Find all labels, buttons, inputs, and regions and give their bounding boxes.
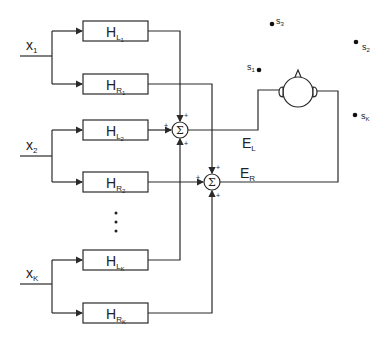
- filter-HL2: HL2: [83, 120, 148, 142]
- output-EL-wiring: [188, 90, 280, 130]
- right-ear-icon: [313, 87, 317, 97]
- source-sK: sK: [353, 111, 370, 122]
- source-s3: s3: [270, 16, 285, 27]
- svg-text:+: +: [216, 192, 220, 199]
- left-bus-wiring: [148, 31, 180, 260]
- input-label-xK: xK: [26, 265, 39, 283]
- listener-head-icon: [279, 70, 317, 107]
- input-label-x1: x1: [26, 37, 38, 55]
- svg-text:sK: sK: [361, 111, 370, 122]
- svg-text:+: +: [184, 140, 188, 147]
- output-label-ER: ER: [240, 165, 255, 183]
- svg-text:+: +: [196, 174, 200, 181]
- svg-text:+: +: [184, 112, 188, 119]
- svg-text:+: +: [216, 164, 220, 171]
- filter-HLK: HLK: [83, 250, 148, 272]
- output-ER-wiring: [220, 91, 338, 182]
- source-s1: s1: [247, 62, 261, 73]
- svg-text:s1: s1: [247, 62, 256, 73]
- source-s2: s2: [354, 40, 371, 53]
- output-label-EL: EL: [242, 135, 256, 153]
- svg-text:Σ: Σ: [208, 176, 216, 189]
- svg-text:s2: s2: [362, 42, 371, 53]
- filter-HR1: HR1: [83, 74, 148, 96]
- filter-HR2: HR2: [83, 172, 148, 194]
- svg-text:Σ: Σ: [176, 124, 184, 137]
- binaural-synthesis-diagram: x1 x2 xK HL1 HR1 HL2 HR2 HLK HRK: [0, 0, 388, 345]
- svg-text:s3: s3: [276, 16, 285, 27]
- input-label-x2: x2: [26, 137, 38, 155]
- ellipsis-dots: [115, 212, 118, 233]
- filter-HL1: HL1: [83, 21, 148, 43]
- left-ear-icon: [279, 87, 283, 97]
- filter-HRK: HRK: [83, 303, 148, 325]
- svg-text:+: +: [164, 122, 168, 129]
